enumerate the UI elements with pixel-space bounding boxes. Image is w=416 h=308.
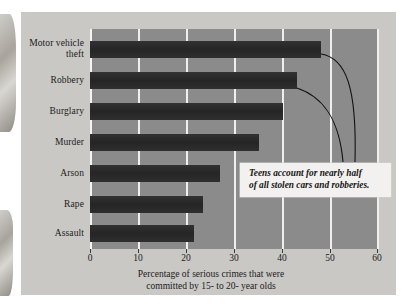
tick-label-50: 50	[325, 253, 335, 263]
bar-row[interactable]	[90, 225, 379, 242]
tick-label-20: 20	[181, 253, 191, 263]
chart-card: Motor vehicle theft Robbery Burglary Mur…	[21, 12, 396, 295]
photo-fragment-bottom	[0, 210, 13, 296]
category-label-rape: Rape	[20, 199, 84, 210]
bar-row[interactable]	[90, 103, 379, 120]
bar-robbery[interactable]	[90, 72, 297, 89]
bar-group	[90, 29, 379, 249]
x-axis: 0 10 20 30 40 50 60	[90, 249, 379, 269]
tick-label-0: 0	[88, 253, 93, 263]
category-label-robbery: Robbery	[20, 75, 84, 86]
tick-label-40: 40	[277, 253, 287, 263]
bar-rape[interactable]	[90, 196, 203, 213]
annotation-line1: Teens account for nearly half	[249, 168, 384, 180]
category-label-assault: Assault	[20, 228, 84, 239]
x-axis-title: Percentage of serious crimes that were c…	[61, 268, 361, 292]
bar-row[interactable]	[90, 134, 379, 151]
bar-burglary[interactable]	[90, 103, 283, 120]
bar-row[interactable]	[90, 41, 379, 58]
category-label-line2: theft	[20, 49, 84, 60]
bar-murder[interactable]	[90, 134, 259, 151]
category-label-arson: Arson	[20, 168, 84, 179]
page-background: Motor vehicle theft Robbery Burglary Mur…	[0, 0, 416, 308]
bar-arson[interactable]	[90, 165, 220, 182]
bar-assault[interactable]	[90, 225, 194, 242]
bar-row[interactable]	[90, 196, 379, 213]
annotation-callout: Teens account for nearly half of all sto…	[240, 163, 391, 197]
x-axis-title-line2: committed by 15- to 20- year olds	[61, 280, 361, 292]
photo-fragment-top	[0, 14, 16, 132]
tick-label-30: 30	[229, 253, 239, 263]
x-axis-title-line1: Percentage of serious crimes that were	[61, 268, 361, 280]
annotation-line2: of all stolen cars and robberies.	[249, 180, 384, 192]
bar-motor-vehicle-theft[interactable]	[90, 41, 321, 58]
category-label-line1: Motor vehicle	[20, 38, 84, 49]
category-axis: Motor vehicle theft Robbery Burglary Mur…	[21, 29, 87, 249]
category-label-murder: Murder	[20, 137, 84, 148]
category-label-motor-vehicle-theft: Motor vehicle theft	[20, 38, 84, 59]
tick-label-60: 60	[372, 253, 382, 263]
category-label-burglary: Burglary	[20, 106, 84, 117]
plot-area	[90, 29, 379, 249]
bar-row[interactable]	[90, 72, 379, 89]
tick-label-10: 10	[133, 253, 143, 263]
